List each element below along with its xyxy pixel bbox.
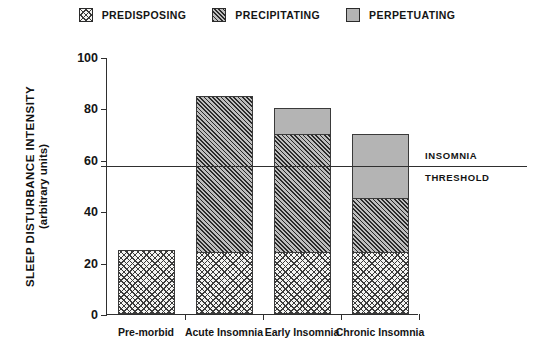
bar-segment-predisposing[interactable] [118, 250, 175, 314]
y-axis-tick-label: 20 [84, 257, 98, 271]
bar-segment-precipitating[interactable] [274, 134, 331, 252]
legend-item-perpetuating: PERPETUATING [346, 8, 455, 22]
bar-segment-precipitating[interactable] [196, 96, 253, 253]
legend-item-predisposing: PREDISPOSING [79, 8, 187, 22]
bar-segment-precipitating[interactable] [352, 198, 409, 252]
y-axis-tick [101, 264, 107, 265]
y-axis-tick [101, 161, 107, 162]
x-axis-tick [185, 314, 186, 320]
plot-area: 020406080100Pre-morbidAcute InsomniaEarl… [106, 58, 418, 315]
solid-gray-swatch-icon [346, 8, 360, 22]
y-axis-tick [101, 58, 107, 59]
x-axis-label-early-insomnia: Early Insomnia [265, 326, 340, 338]
y-axis-tick-label: 60 [84, 154, 98, 168]
bar-segment-predisposing[interactable] [352, 252, 409, 314]
bar-early-insomnia[interactable] [274, 108, 331, 314]
y-axis-tick-label: 100 [77, 51, 98, 65]
y-axis-tick [101, 212, 107, 213]
chart-legend: PREDISPOSING PRECIPITATING PERPETUATING [0, 8, 534, 22]
diagonal-hatch-swatch-icon [212, 8, 226, 22]
legend-label-perpetuating: PERPETUATING [369, 9, 455, 21]
bar-acute-insomnia[interactable] [196, 96, 253, 314]
y-axis-tick [101, 109, 107, 110]
legend-label-precipitating: PRECIPITATING [235, 9, 320, 21]
y-axis-tick-label: 80 [84, 102, 98, 116]
x-axis-label-chronic-insomnia: Chronic Insomnia [336, 326, 425, 338]
x-axis-label-acute-insomnia: Acute Insomnia [185, 326, 263, 338]
y-axis-tick-label: 0 [91, 308, 98, 322]
y-axis-tick-label: 40 [84, 205, 98, 219]
threshold-label-threshold: THRESHOLD [425, 172, 490, 183]
y-axis-tick [101, 315, 107, 316]
threshold-label-insomnia: INSOMNIA [425, 150, 477, 161]
legend-item-precipitating: PRECIPITATING [212, 8, 320, 22]
bar-chronic-insomnia[interactable] [352, 134, 409, 314]
bar-segment-predisposing[interactable] [196, 252, 253, 314]
y-axis-title: SLEEP DISTURBANCE INTENSITY (arbitrary u… [14, 58, 58, 315]
x-axis-label-pre-morbid: Pre-morbid [118, 326, 174, 338]
legend-label-predisposing: PREDISPOSING [102, 9, 187, 21]
x-axis-tick [263, 314, 264, 320]
y-axis-title-line2: (arbitrary units) [37, 144, 49, 229]
y-axis-title-line1: SLEEP DISTURBANCE INTENSITY [24, 86, 36, 287]
bar-pre-morbid[interactable] [118, 250, 175, 314]
bar-segment-perpetuating[interactable] [274, 108, 331, 134]
page-edge-bleed [508, 108, 532, 258]
x-axis-tick [341, 314, 342, 320]
x-axis-tick [419, 314, 420, 320]
bar-segment-predisposing[interactable] [274, 252, 331, 314]
crosshatch-dotted-swatch-icon [79, 8, 93, 22]
insomnia-threshold-line [101, 166, 527, 167]
